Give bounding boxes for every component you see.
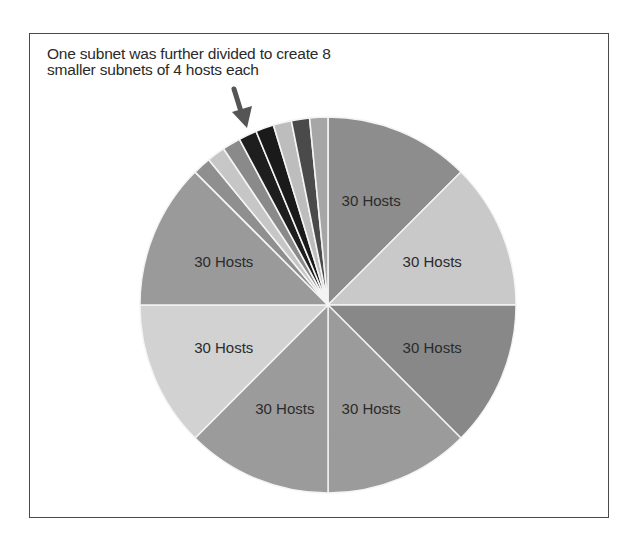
slice-label: 30 Hosts [342, 400, 401, 417]
slice-label: 30 Hosts [403, 253, 462, 270]
arrow-icon [232, 89, 252, 128]
pie-chart: 30 Hosts30 Hosts30 Hosts30 Hosts30 Hosts… [0, 0, 635, 543]
slice-label: 30 Hosts [194, 339, 253, 356]
slice-label: 30 Hosts [255, 400, 314, 417]
slice-label: 30 Hosts [403, 339, 462, 356]
pie-slices [140, 117, 516, 493]
slice-label: 30 Hosts [194, 253, 253, 270]
slice-label: 30 Hosts [342, 192, 401, 209]
